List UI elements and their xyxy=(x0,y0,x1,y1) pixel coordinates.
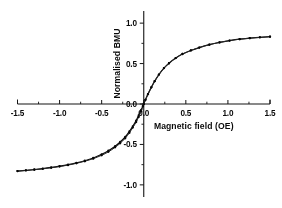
data-point-marker xyxy=(175,57,177,59)
x-tick-label: 0.5 xyxy=(180,109,191,118)
x-tick-label: 1.0 xyxy=(223,109,234,118)
data-point-marker xyxy=(92,158,94,160)
data-point-marker xyxy=(228,39,230,41)
data-point-marker xyxy=(143,103,145,105)
data-point-marker xyxy=(135,121,137,123)
data-point-marker xyxy=(168,62,170,64)
data-point-marker xyxy=(190,49,192,51)
data-point-marker xyxy=(42,168,44,170)
data-point-marker xyxy=(132,126,134,128)
data-point-marker xyxy=(150,86,152,88)
data-point-marker xyxy=(114,146,116,148)
data-point-marker xyxy=(147,93,149,95)
y-tick-label: -0.5 xyxy=(123,140,137,149)
data-point-marker xyxy=(154,80,156,82)
data-point-marker xyxy=(50,167,52,169)
data-point-marker xyxy=(249,37,251,39)
y-tick-label: 0.0 xyxy=(126,100,137,109)
data-point-marker xyxy=(84,160,86,162)
data-point-marker xyxy=(259,36,261,38)
data-point-marker xyxy=(181,53,183,55)
y-tick-label: 0.5 xyxy=(126,60,137,69)
data-point-marker xyxy=(138,116,140,118)
data-point-marker xyxy=(144,99,146,101)
data-point-marker xyxy=(119,142,121,144)
data-point-marker xyxy=(158,73,160,75)
chart-svg: -1.5-1.0-0.50.00.51.01.51.00.50.0-0.5-1.… xyxy=(0,0,282,208)
data-point-marker xyxy=(128,132,130,134)
data-point-marker xyxy=(124,137,126,139)
data-point-marker xyxy=(75,162,77,164)
data-point-marker xyxy=(101,154,103,156)
data-point-marker xyxy=(107,151,109,153)
x-tick-label: -0.5 xyxy=(95,109,109,118)
x-axis-label: Magnetic field (OE) xyxy=(154,121,234,131)
x-tick-label: -1.5 xyxy=(11,109,25,118)
y-axis-label: Normalised BMU xyxy=(112,28,122,98)
data-point-marker xyxy=(198,46,200,48)
magnetization-hysteresis-chart: -1.5-1.0-0.50.00.51.01.51.00.50.0-0.5-1.… xyxy=(0,0,282,208)
data-point-marker xyxy=(142,105,144,107)
data-point-marker xyxy=(67,164,69,166)
x-tick-label: 1.5 xyxy=(265,109,276,118)
data-point-marker xyxy=(33,169,35,171)
data-point-marker xyxy=(58,165,60,167)
y-tick-label: -1.0 xyxy=(123,181,137,190)
data-point-marker xyxy=(269,36,271,38)
data-point-marker xyxy=(25,169,27,171)
data-point-marker xyxy=(208,43,210,45)
data-point-marker xyxy=(239,38,241,40)
y-tick-label: 1.0 xyxy=(126,19,137,28)
data-point-marker xyxy=(140,110,142,112)
data-point-marker xyxy=(16,170,18,172)
data-point-marker xyxy=(218,41,220,43)
data-point-marker xyxy=(163,67,165,69)
x-tick-label: -1.0 xyxy=(53,109,67,118)
